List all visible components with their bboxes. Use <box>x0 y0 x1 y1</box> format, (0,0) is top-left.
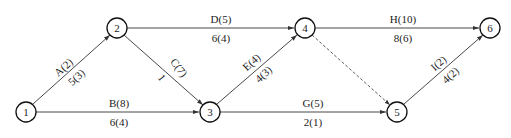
edge-C: C(7) 1 <box>124 35 203 105</box>
edge-I: I(2) 4(2) <box>404 35 483 104</box>
edge-G: G(5) 2(1) <box>220 97 386 129</box>
node-6-label: 6 <box>487 22 493 34</box>
edge-D-top-label: D(5) <box>211 13 232 26</box>
edge-G-top-label: G(5) <box>303 97 324 110</box>
node-5: 5 <box>387 102 407 122</box>
node-3: 3 <box>200 102 220 122</box>
edge-D-bottom-label: 6(4) <box>212 32 231 45</box>
edge-B-bottom-label: 6(4) <box>110 116 129 129</box>
node-1: 1 <box>16 102 36 122</box>
edge-C-bottom-label: 1 <box>156 72 169 84</box>
edge-H: H(10) 8(6) <box>315 13 479 45</box>
node-2: 2 <box>107 18 127 38</box>
node-3-label: 3 <box>207 106 213 118</box>
node-6: 6 <box>480 18 500 38</box>
node-2-label: 2 <box>114 22 120 34</box>
node-4: 4 <box>295 18 315 38</box>
edge-E-bottom-label: 4(3) <box>252 63 275 85</box>
node-5-label: 5 <box>394 106 400 118</box>
edge-H-bottom-label: 8(6) <box>394 32 413 45</box>
edge-G-bottom-label: 2(1) <box>304 116 323 129</box>
node-1-label: 1 <box>23 106 29 118</box>
edge-A: A(2) 5(3) <box>33 35 110 104</box>
edge-dummy <box>312 35 390 105</box>
network-diagram: A(2) 5(3) B(8) 6(4) C(7) 1 D(5) 6(4) <box>0 0 511 138</box>
edge-H-top-label: H(10) <box>390 13 417 26</box>
edge-E: E(4) 4(3) <box>217 35 297 104</box>
edges-group: A(2) 5(3) B(8) 6(4) C(7) 1 D(5) 6(4) <box>33 13 483 129</box>
edge-B-top-label: B(8) <box>109 97 130 110</box>
edge-B: B(8) 6(4) <box>36 97 199 129</box>
edge-I-bottom-label: 4(2) <box>439 64 462 86</box>
node-4-label: 4 <box>302 22 308 34</box>
edge-D: D(5) 6(4) <box>127 13 294 45</box>
